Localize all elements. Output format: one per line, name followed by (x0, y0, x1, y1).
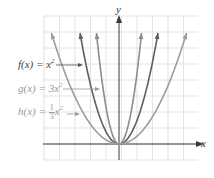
label-f: f(x) = x2 (18, 57, 55, 70)
curve-arrow-icon (79, 33, 84, 39)
label-g: g(x) = 3x2 (18, 81, 63, 94)
grid (43, 16, 198, 160)
curve-arrow-icon (51, 33, 56, 39)
x-axis-label: x (200, 137, 206, 149)
curve-arrow-icon (154, 33, 159, 39)
label-h: h(x) = 13x2 (18, 104, 63, 121)
y-axis-label: y (115, 3, 121, 15)
